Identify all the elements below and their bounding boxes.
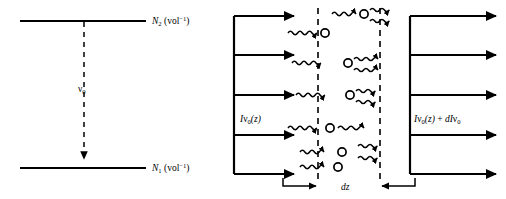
lower-level-label: N1 (vol−1) — [151, 162, 190, 174]
emitted-photon-wave-6b — [358, 156, 377, 159]
output-flux-label: Iν0(z) + dIν0 — [413, 114, 461, 125]
right-panel-group: Iν0(z) — [234, 8, 496, 192]
atom-interaction-7 — [300, 163, 342, 171]
atom-interaction-3 — [292, 57, 378, 71]
upper-level-units-close: ) — [186, 16, 189, 27]
atom-interaction-2 — [288, 29, 329, 37]
output-flux-argument: (z) — [425, 114, 435, 125]
input-flux-label: Iν0(z) — [239, 114, 261, 125]
incident-photon-wave-5 — [288, 126, 317, 129]
transition-frequency-label: ν0 — [78, 84, 86, 95]
emitted-photon-wave-6a — [358, 144, 377, 147]
atom-circle-7 — [334, 163, 342, 171]
atom-interaction-6 — [300, 144, 377, 159]
dz-left-dimension-arrow — [283, 178, 316, 186]
incident-photon-wave-1 — [332, 12, 356, 15]
dz-label: dz — [341, 182, 350, 192]
output-flux-group: Iν0(z) + dIν0 — [410, 16, 496, 174]
atom-circle-3 — [344, 59, 352, 67]
upper-level-units: (vol — [164, 16, 180, 27]
lower-level-units-close: ) — [186, 163, 189, 174]
emitted-photon-wave-3a — [354, 57, 378, 60]
incident-photon-wave-3 — [292, 61, 321, 64]
input-flux-group: Iν0(z) — [234, 16, 294, 174]
atom-circle-5 — [326, 124, 334, 132]
incident-photon-wave-7 — [300, 165, 324, 168]
atom-circle-4 — [346, 91, 354, 99]
dz-z: z — [345, 182, 350, 192]
figure-container: ν0 N2 (vol−1) N1 (vol−1) Iν0(z) — [0, 0, 506, 199]
lower-level-units-exponent: −1 — [179, 162, 186, 169]
emitted-photon-wave-1a — [370, 8, 389, 11]
emitted-photon-wave-4a — [356, 89, 375, 92]
dz-right-dimension-arrow — [382, 178, 415, 186]
atom-interaction-5 — [288, 124, 364, 132]
input-flux-argument: (z) — [251, 114, 261, 125]
atom-interaction-4 — [296, 89, 375, 103]
left-panel-group: ν0 N2 (vol−1) N1 (vol−1) — [20, 15, 190, 174]
incident-photon-wave-4 — [296, 93, 325, 96]
upper-level-label: N2 (vol−1) — [151, 15, 190, 27]
incident-photon-wave-6 — [300, 150, 324, 153]
upper-level-units-exponent: −1 — [179, 15, 186, 22]
output-flux-dsubscript: 0 — [457, 118, 461, 125]
emitted-photon-wave-5 — [338, 126, 364, 129]
atom-circle-1 — [360, 10, 368, 18]
incident-photon-wave-2 — [288, 31, 317, 34]
emitted-photon-wave-1b — [370, 19, 389, 22]
emitted-photon-wave-4b — [356, 100, 375, 103]
lower-level-units: (vol — [164, 163, 180, 174]
dz-dimension-group: dz — [283, 178, 415, 192]
atom-circle-2 — [321, 29, 329, 37]
nu-subscript: 0 — [82, 88, 86, 95]
diagram-canvas: ν0 N2 (vol−1) N1 (vol−1) Iν0(z) — [0, 0, 506, 199]
emitted-photon-wave-3b — [354, 68, 378, 71]
atom-circle-6 — [338, 148, 346, 156]
